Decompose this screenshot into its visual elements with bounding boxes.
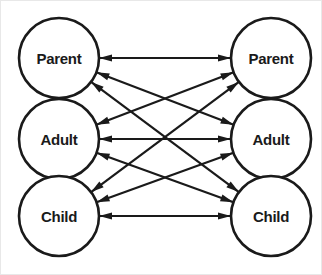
link-adult-parent-arrowhead-end: [220, 72, 233, 80]
link-parent-adult-arrowhead-end: [220, 117, 233, 125]
node-right-parent[interactable]: Parent: [231, 18, 311, 98]
right-child-label: Child: [253, 208, 289, 225]
link-adult-parent-arrowhead-start: [96, 117, 109, 125]
node-left-parent[interactable]: Parent: [19, 18, 99, 98]
link-adult-adult-arrowhead-start: [99, 135, 112, 142]
link-parent-parent-arrowhead-end: [218, 54, 231, 61]
node-left-adult[interactable]: Adult: [19, 99, 99, 179]
left-parent-label: Parent: [37, 50, 82, 67]
link-parent-adult-arrowhead-start: [96, 72, 109, 80]
node-right-child[interactable]: Child: [231, 176, 311, 256]
link-child-child-arrowhead-start: [99, 212, 112, 219]
link-child-child: [99, 212, 231, 219]
link-child-adult-arrowhead-start: [97, 195, 110, 203]
link-adult-adult-arrowhead-end: [218, 135, 231, 142]
diagram-canvas: Parent Adult Child Parent Adult Child: [1, 1, 322, 275]
right-adult-label: Adult: [253, 131, 290, 148]
link-parent-parent-arrowhead-start: [99, 54, 112, 61]
left-child-label: Child: [41, 208, 77, 225]
left-adult-label: Adult: [41, 131, 78, 148]
right-parent-label: Parent: [249, 50, 294, 67]
link-adult-child-arrowhead-end: [220, 195, 233, 203]
link-adult-child-arrowhead-start: [97, 153, 110, 161]
node-right-adult[interactable]: Adult: [231, 99, 311, 179]
connection-lines-group: [91, 54, 239, 219]
node-left-child[interactable]: Child: [19, 176, 99, 256]
link-parent-parent: [99, 54, 231, 61]
link-child-child-arrowhead-end: [218, 212, 231, 219]
ego-state-diagram: Parent Adult Child Parent Adult Child: [0, 0, 322, 275]
link-child-adult-arrowhead-end: [220, 153, 233, 161]
